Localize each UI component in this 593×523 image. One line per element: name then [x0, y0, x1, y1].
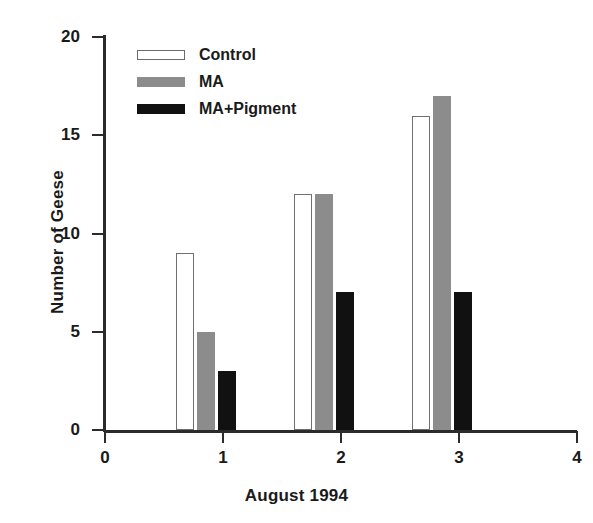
bar-control-group-3 — [412, 116, 430, 430]
x-tick-label: 4 — [557, 448, 593, 468]
legend-swatch-icon — [137, 50, 185, 60]
legend-label: MA — [199, 73, 224, 91]
legend-item-control: Control — [137, 44, 296, 66]
y-tick-label: 20 — [0, 27, 80, 47]
legend-swatch-icon — [137, 77, 185, 87]
x-tick-mark — [222, 431, 224, 443]
y-tick-mark — [92, 429, 104, 431]
x-tick-label: 1 — [203, 448, 243, 468]
bar-ma-group-3 — [433, 96, 451, 430]
y-tick-label: 15 — [0, 125, 80, 145]
legend-label: MA+Pigment — [199, 100, 296, 118]
bar-ma-plus-pigment-group-1 — [218, 371, 236, 430]
y-tick-label: 5 — [0, 322, 80, 342]
bar-ma-group-2 — [315, 194, 333, 430]
y-tick-mark — [92, 233, 104, 235]
bar-ma-group-1 — [197, 332, 215, 430]
legend-item-ma-plus-pigment: MA+Pigment — [137, 98, 296, 120]
bar-chart: Number of Geese 20151050 01234 ControlMA… — [0, 0, 593, 523]
y-tick-label: 0 — [0, 420, 80, 440]
bar-control-group-2 — [294, 194, 312, 430]
x-tick-mark — [104, 431, 106, 443]
legend-swatch-icon — [137, 104, 185, 114]
y-tick-mark — [92, 331, 104, 333]
bar-control-group-1 — [176, 253, 194, 430]
legend-item-ma: MA — [137, 71, 296, 93]
x-tick-mark — [576, 431, 578, 443]
x-tick-mark — [340, 431, 342, 443]
y-tick-mark — [92, 134, 104, 136]
y-tick-mark — [92, 36, 104, 38]
legend: ControlMAMA+Pigment — [137, 44, 296, 125]
x-tick-label: 0 — [85, 448, 125, 468]
x-tick-label: 2 — [321, 448, 361, 468]
legend-label: Control — [199, 46, 256, 64]
x-tick-label: 3 — [439, 448, 479, 468]
bar-ma-plus-pigment-group-3 — [454, 292, 472, 430]
bar-ma-plus-pigment-group-2 — [336, 292, 354, 430]
x-axis-label: August 1994 — [0, 486, 593, 506]
x-tick-mark — [458, 431, 460, 443]
y-tick-label: 10 — [0, 224, 80, 244]
